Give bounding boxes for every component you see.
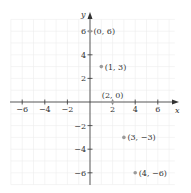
axes: x y xyxy=(10,10,180,185)
x-tick-label: 6 xyxy=(155,105,160,114)
y-tick-label: −6 xyxy=(74,169,86,178)
x-tick-label: −6 xyxy=(16,105,28,114)
data-point xyxy=(88,29,92,33)
y-tick-label: −4 xyxy=(74,145,86,154)
x-tick-label: −2 xyxy=(62,105,74,114)
x-axis-arrow-icon xyxy=(172,100,179,105)
data-point xyxy=(122,136,126,140)
y-axis-label: y xyxy=(80,10,86,19)
data-point xyxy=(111,100,115,104)
y-tick-label: 6 xyxy=(81,27,86,36)
data-point xyxy=(133,171,137,175)
point-label: (0, 6) xyxy=(94,27,116,36)
x-tick-label: 4 xyxy=(133,105,138,114)
coordinate-plane-chart: x y −6−4−2246−6−4−2246 (0, 6)(1, 3)(2, 0… xyxy=(0,0,191,193)
point-label: (4, −6) xyxy=(139,169,167,178)
data-points: (0, 6)(1, 3)(2, 0)(3, −3)(4, −6) xyxy=(88,27,167,178)
ticks: −6−4−2246−6−4−2246 xyxy=(16,27,160,178)
point-label: (1, 3) xyxy=(105,63,127,72)
x-axis-label: x xyxy=(175,106,180,115)
y-tick-label: −2 xyxy=(74,122,86,131)
x-tick-label: −4 xyxy=(39,105,51,114)
point-label: (2, 0) xyxy=(102,91,124,100)
y-tick-label: 2 xyxy=(81,74,86,83)
x-tick-label: 2 xyxy=(110,105,115,114)
y-axis-arrow-icon xyxy=(88,12,93,19)
y-tick-label: 4 xyxy=(81,51,86,60)
data-point xyxy=(100,65,104,69)
point-label: (3, −3) xyxy=(127,133,155,142)
